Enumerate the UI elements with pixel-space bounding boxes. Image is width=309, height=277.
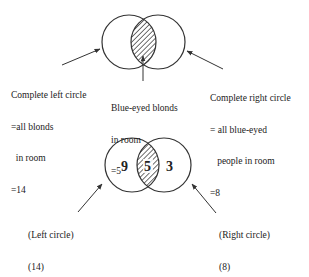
label-line: Complete left circle bbox=[11, 90, 86, 101]
label-line: (14) bbox=[28, 262, 74, 273]
left-circle-arrow bbox=[62, 49, 100, 65]
label-line: =all blonds bbox=[11, 122, 86, 133]
label-line: people in room bbox=[210, 156, 291, 167]
label-line: Complete right circle bbox=[210, 93, 291, 104]
label-line: =5 bbox=[111, 166, 178, 177]
top-left-label: Complete left circle =all blonds in room… bbox=[11, 69, 86, 206]
label-line: in room bbox=[11, 153, 86, 164]
label-line: (8) bbox=[219, 262, 270, 273]
label-line: =8 bbox=[210, 188, 291, 199]
bottom-right-label: (Right circle) (8) bbox=[219, 209, 270, 277]
right-circle-arrow bbox=[187, 51, 223, 69]
label-line: in room bbox=[111, 135, 178, 146]
label-line: =14 bbox=[11, 185, 86, 196]
label-line: (Left circle) bbox=[28, 230, 74, 241]
bottom-left-label: (Left circle) (14) bbox=[28, 209, 74, 277]
top-right-label: Complete right circle = all blue-eyed pe… bbox=[210, 72, 291, 209]
label-line: Blue-eyed blonds bbox=[111, 103, 178, 114]
top-middle-label: Blue-eyed blonds in room =5 bbox=[111, 82, 178, 187]
label-line: = all blue-eyed bbox=[210, 125, 291, 136]
label-line: (Right circle) bbox=[219, 230, 270, 241]
